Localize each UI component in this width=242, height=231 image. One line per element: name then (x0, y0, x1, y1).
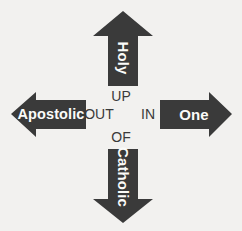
up-arrow-label: Holy (116, 42, 131, 75)
center-word-of: OF (111, 130, 130, 144)
center-word-out: OUT (84, 107, 114, 121)
center-word-up: UP (111, 89, 130, 103)
arrow-cross-diagram: Holy One Catholic Apostolic UP OUT IN OF (0, 0, 242, 231)
center-word-in: IN (141, 107, 155, 121)
down-arrow-label: Catholic (116, 147, 131, 207)
right-arrow-label: One (179, 107, 208, 122)
left-arrow-label: Apostolic (18, 107, 85, 122)
